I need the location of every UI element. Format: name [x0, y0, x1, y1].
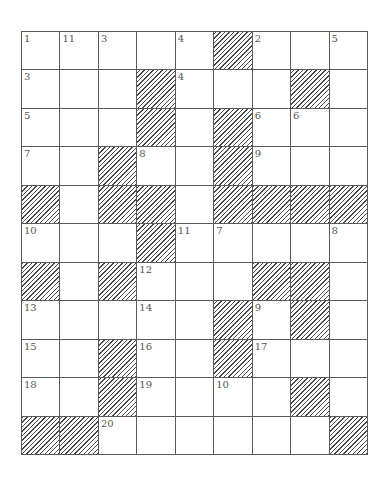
answer-cell[interactable] — [176, 378, 214, 416]
answer-cell[interactable] — [99, 301, 137, 339]
answer-cell[interactable] — [176, 186, 214, 224]
answer-cell[interactable] — [99, 224, 137, 262]
answer-cell[interactable]: 20 — [99, 417, 137, 455]
answer-cell[interactable]: 19 — [137, 378, 175, 416]
answer-cell[interactable] — [60, 224, 98, 262]
clue-number: 10 — [216, 380, 229, 390]
answer-cell[interactable] — [99, 109, 137, 147]
answer-cell[interactable] — [60, 340, 98, 378]
blocked-cell — [99, 263, 137, 301]
answer-cell[interactable]: 6 — [253, 109, 291, 147]
answer-cell[interactable] — [253, 417, 291, 455]
answer-cell[interactable] — [291, 147, 329, 185]
blocked-cell — [330, 417, 368, 455]
answer-cell[interactable] — [330, 147, 368, 185]
answer-cell[interactable]: 17 — [253, 340, 291, 378]
answer-cell[interactable] — [330, 263, 368, 301]
answer-cell[interactable]: 7 — [22, 147, 60, 185]
clue-number: 7 — [216, 226, 222, 236]
blocked-cell — [214, 301, 252, 339]
answer-cell[interactable]: 14 — [137, 301, 175, 339]
answer-cell[interactable]: 1 — [22, 32, 60, 70]
answer-cell[interactable]: 15 — [22, 340, 60, 378]
clue-number: 9 — [255, 149, 261, 159]
answer-cell[interactable] — [176, 301, 214, 339]
answer-cell[interactable]: 16 — [137, 340, 175, 378]
answer-cell[interactable] — [214, 417, 252, 455]
answer-cell[interactable] — [291, 340, 329, 378]
blocked-cell — [253, 263, 291, 301]
answer-cell[interactable] — [60, 378, 98, 416]
answer-cell[interactable] — [330, 70, 368, 108]
answer-cell[interactable] — [176, 109, 214, 147]
blocked-cell — [137, 186, 175, 224]
answer-cell[interactable] — [330, 301, 368, 339]
answer-cell[interactable] — [291, 417, 329, 455]
answer-cell[interactable]: 11 — [176, 224, 214, 262]
answer-cell[interactable]: 5 — [330, 32, 368, 70]
answer-cell[interactable] — [253, 378, 291, 416]
answer-cell[interactable] — [253, 224, 291, 262]
answer-cell[interactable]: 3 — [22, 70, 60, 108]
clue-number: 2 — [255, 34, 261, 44]
answer-cell[interactable] — [176, 147, 214, 185]
blocked-cell — [99, 378, 137, 416]
clue-number: 9 — [255, 303, 261, 313]
clue-number: 6 — [255, 111, 261, 121]
blocked-cell — [291, 70, 329, 108]
answer-cell[interactable] — [60, 70, 98, 108]
clue-number: 5 — [332, 34, 338, 44]
answer-cell[interactable]: 2 — [253, 32, 291, 70]
answer-cell[interactable]: 4 — [176, 32, 214, 70]
answer-cell[interactable]: 3 — [99, 32, 137, 70]
answer-cell[interactable]: 6 — [291, 109, 329, 147]
blocked-cell — [330, 186, 368, 224]
blocked-cell — [22, 186, 60, 224]
answer-cell[interactable] — [330, 109, 368, 147]
answer-cell[interactable] — [214, 263, 252, 301]
clue-number: 13 — [24, 303, 37, 313]
clue-number: 8 — [139, 149, 145, 159]
answer-cell[interactable] — [60, 301, 98, 339]
answer-cell[interactable]: 9 — [253, 301, 291, 339]
answer-cell[interactable] — [60, 186, 98, 224]
answer-cell[interactable] — [60, 263, 98, 301]
answer-cell[interactable]: 4 — [176, 70, 214, 108]
answer-cell[interactable]: 11 — [60, 32, 98, 70]
answer-cell[interactable]: 12 — [137, 263, 175, 301]
answer-cell[interactable] — [137, 32, 175, 70]
answer-cell[interactable]: 9 — [253, 147, 291, 185]
answer-cell[interactable] — [60, 109, 98, 147]
answer-cell[interactable] — [176, 417, 214, 455]
blocked-cell — [60, 417, 98, 455]
answer-cell[interactable] — [253, 70, 291, 108]
blocked-cell — [137, 224, 175, 262]
blocked-cell — [137, 109, 175, 147]
answer-cell[interactable]: 13 — [22, 301, 60, 339]
clue-number: 4 — [178, 34, 184, 44]
clue-number: 17 — [255, 342, 268, 352]
answer-cell[interactable]: 8 — [137, 147, 175, 185]
answer-cell[interactable] — [330, 340, 368, 378]
answer-cell[interactable] — [214, 70, 252, 108]
blocked-cell — [291, 186, 329, 224]
answer-cell[interactable]: 8 — [330, 224, 368, 262]
answer-cell[interactable]: 7 — [214, 224, 252, 262]
clue-number: 11 — [62, 34, 75, 44]
answer-cell[interactable]: 18 — [22, 378, 60, 416]
answer-cell[interactable] — [330, 378, 368, 416]
answer-cell[interactable] — [291, 32, 329, 70]
crossword-grid: 1113425345667891011781213149151617181910… — [21, 31, 368, 455]
answer-cell[interactable]: 10 — [214, 378, 252, 416]
blocked-cell — [214, 147, 252, 185]
answer-cell[interactable] — [291, 224, 329, 262]
answer-cell[interactable] — [176, 263, 214, 301]
answer-cell[interactable] — [99, 70, 137, 108]
clue-number: 18 — [24, 380, 37, 390]
answer-cell[interactable] — [176, 340, 214, 378]
clue-number: 5 — [24, 111, 30, 121]
answer-cell[interactable] — [137, 417, 175, 455]
answer-cell[interactable]: 5 — [22, 109, 60, 147]
answer-cell[interactable] — [60, 147, 98, 185]
answer-cell[interactable]: 10 — [22, 224, 60, 262]
